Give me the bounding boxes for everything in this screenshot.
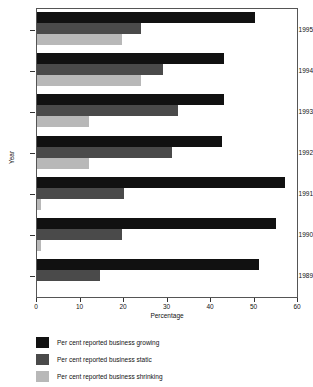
bar-1990-shrinking bbox=[37, 240, 41, 251]
x-tick-label-20: 20 bbox=[111, 303, 135, 310]
y-tick-mark-1991 bbox=[30, 194, 35, 195]
legend-swatch-static bbox=[36, 354, 49, 365]
bar-1989-growing bbox=[37, 259, 259, 270]
bar-1994-growing bbox=[37, 53, 224, 64]
legend-item-static: Per cent reported business static bbox=[36, 351, 306, 368]
y-tick-label-1992: 1992 bbox=[283, 149, 313, 156]
legend-item-shrinking: Per cent reported business shrinking bbox=[36, 368, 306, 385]
bar-1993-growing bbox=[37, 94, 224, 105]
bar-1990-static bbox=[37, 229, 122, 240]
y-tick-label-1989: 1989 bbox=[283, 272, 313, 279]
x-tick-mark-30 bbox=[167, 298, 168, 302]
legend-label-static: Per cent reported business static bbox=[57, 356, 152, 363]
chart-legend: Per cent reported business growingPer ce… bbox=[36, 334, 306, 385]
legend-swatch-growing bbox=[36, 337, 49, 348]
bar-1992-shrinking bbox=[37, 158, 89, 169]
legend-label-growing: Per cent reported business growing bbox=[57, 339, 159, 346]
bar-1995-growing bbox=[37, 12, 255, 23]
bar-1993-shrinking bbox=[37, 116, 89, 127]
x-tick-label-50: 50 bbox=[242, 303, 266, 310]
bar-1991-growing bbox=[37, 177, 285, 188]
bar-1995-static bbox=[37, 23, 141, 34]
x-tick-mark-20 bbox=[123, 298, 124, 302]
legend-item-growing: Per cent reported business growing bbox=[36, 334, 306, 351]
x-tick-label-40: 40 bbox=[198, 303, 222, 310]
x-tick-label-30: 30 bbox=[155, 303, 179, 310]
x-axis-title: Percentage bbox=[36, 312, 298, 319]
legend-label-shrinking: Per cent reported business shrinking bbox=[57, 373, 163, 380]
x-tick-mark-10 bbox=[80, 298, 81, 302]
y-tick-mark-1995 bbox=[30, 30, 35, 31]
x-tick-label-60: 60 bbox=[285, 303, 309, 310]
y-tick-mark-1994 bbox=[30, 71, 35, 72]
bar-1992-growing bbox=[37, 136, 222, 147]
bars-layer bbox=[37, 9, 298, 297]
x-tick-label-0: 0 bbox=[24, 303, 48, 310]
bar-1991-static bbox=[37, 188, 124, 199]
x-tick-mark-0 bbox=[36, 298, 37, 302]
y-tick-label-1991: 1991 bbox=[283, 190, 313, 197]
bar-1991-shrinking bbox=[37, 199, 41, 210]
y-axis-title-text: Year bbox=[8, 151, 15, 164]
bar-1993-static bbox=[37, 105, 178, 116]
y-axis-title: Year bbox=[0, 146, 32, 164]
y-tick-label-1995: 1995 bbox=[283, 26, 313, 33]
bar-1994-static bbox=[37, 64, 163, 75]
bar-1994-shrinking bbox=[37, 75, 141, 86]
y-tick-label-1993: 1993 bbox=[283, 108, 313, 115]
x-tick-mark-40 bbox=[210, 298, 211, 302]
y-tick-mark-1989 bbox=[30, 276, 35, 277]
y-tick-mark-1990 bbox=[30, 235, 35, 236]
y-tick-mark-1993 bbox=[30, 112, 35, 113]
y-tick-label-1994: 1994 bbox=[283, 67, 313, 74]
x-tick-mark-50 bbox=[254, 298, 255, 302]
x-tick-mark-60 bbox=[297, 298, 298, 302]
horizontal-bar-chart: 1995199419931992199119901989 Year 010203… bbox=[0, 0, 313, 387]
legend-swatch-shrinking bbox=[36, 371, 49, 382]
bar-1989-static bbox=[37, 270, 100, 281]
bar-1992-static bbox=[37, 147, 172, 158]
bar-1990-growing bbox=[37, 218, 276, 229]
bar-1995-shrinking bbox=[37, 34, 122, 45]
x-tick-label-10: 10 bbox=[68, 303, 92, 310]
y-tick-label-1990: 1990 bbox=[283, 231, 313, 238]
